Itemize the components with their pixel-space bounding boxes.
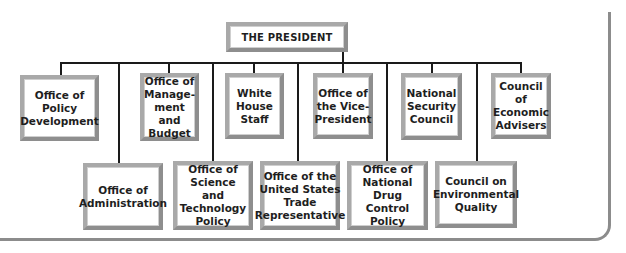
council-environmental-quality-box: Council on Environmental Quality [435, 161, 517, 228]
connector-bus [60, 62, 522, 64]
connector-administration [118, 62, 120, 163]
national-security-council-box: National Security Council [401, 73, 462, 140]
connector-environment [476, 62, 478, 161]
office-management-budget-box: Office of Manage- ment and Budget [140, 73, 199, 141]
office-drug-control-box: Office of National Drug Control Policy [347, 161, 428, 230]
office-administration-box: Office of Administration [83, 163, 163, 230]
office-trade-representative-box: Office of the United States Trade Repres… [260, 161, 340, 230]
council-economic-advisers-box: Council of Economic Advisers [491, 73, 551, 139]
connector-vice-president [342, 62, 344, 73]
office-vice-president-box: Office of the Vice- President [313, 73, 373, 139]
connector-trade-rep [297, 62, 299, 161]
president-box: THE PRESIDENT [226, 22, 348, 52]
connector-policy-dev [60, 62, 62, 75]
connector-science-tech [212, 62, 214, 161]
connector-cea [520, 62, 522, 73]
connector-management [168, 62, 170, 73]
office-policy-development-box: Office of Policy Development [20, 75, 99, 141]
connector-drug-control [386, 62, 388, 161]
connector-nsc [431, 62, 433, 73]
white-house-staff-box: White House Staff [225, 73, 284, 139]
office-science-technology-box: Office of Science and Technology Policy [173, 161, 253, 230]
